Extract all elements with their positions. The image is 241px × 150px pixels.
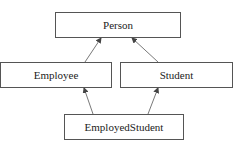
arrow-employedstudent-to-employee <box>84 88 93 114</box>
arrow-employedstudent-to-student <box>148 88 158 114</box>
class-box-employee: Employee <box>0 62 112 88</box>
arrow-employee-to-person <box>85 38 101 62</box>
class-label-student: Student <box>160 69 194 81</box>
class-label-employee: Employee <box>34 69 79 81</box>
class-label-person: Person <box>103 19 133 31</box>
inheritance-diagram: Person Employee Student EmployedStudent <box>0 0 241 150</box>
class-box-person: Person <box>55 12 181 38</box>
arrow-student-to-person <box>132 38 158 62</box>
class-box-student: Student <box>120 62 233 88</box>
class-label-employedstudent: EmployedStudent <box>85 121 164 133</box>
class-box-employedstudent: EmployedStudent <box>64 114 184 140</box>
